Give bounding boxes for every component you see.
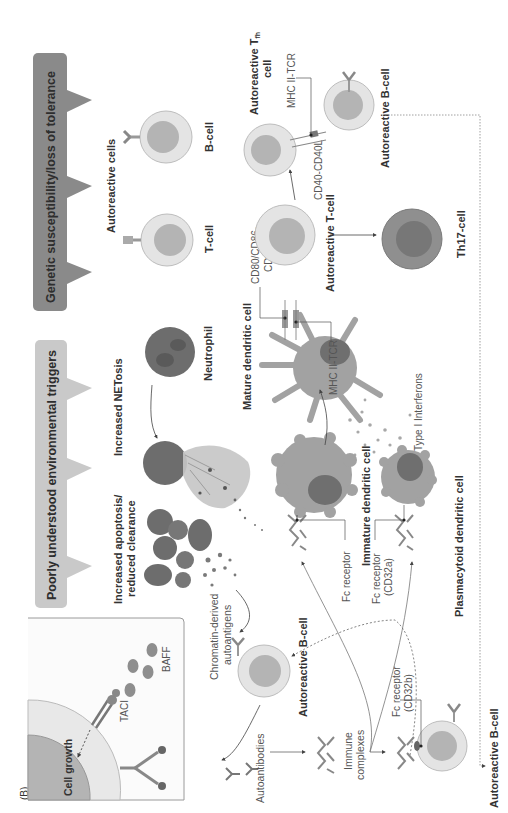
autoreactive-tfh-cell-icon <box>244 124 296 176</box>
plasmacytoid-dendritic-cell-icon <box>379 445 437 507</box>
t-cell-label: T-cell <box>203 225 215 253</box>
autoreactive-t-cell-label: Autoreactive T-cell <box>324 194 336 292</box>
mature-dc-label: Mature dendritic cell <box>241 303 253 410</box>
increased-apoptosis-label-2: reduced clearance <box>125 500 137 597</box>
mhc-tcr-label-2: MHC II-TCR <box>286 53 297 108</box>
autoreactive-b-cell-bottom-icon <box>414 704 467 771</box>
autoreactive-tfh-label-2: cell <box>261 60 273 78</box>
banner-genetic-text: Genetic susceptibility/loss of tolerance <box>44 71 58 303</box>
apoptotic-cells-icon: Increased apoptosis/ reduced clearance <box>112 495 236 604</box>
neutrophil-icon <box>145 327 195 377</box>
dc-tcell-receptors-icon <box>282 300 299 340</box>
figure-canvas: Genetic susceptibility/loss of tolerance… <box>0 0 508 813</box>
autoreactive-b-cell-top-icon <box>324 72 374 130</box>
increased-apoptosis-label-1: Increased apoptosis/ <box>112 495 124 604</box>
chromatin-label-1: Chromatin-derived <box>208 593 220 680</box>
type1-ifn-label: Type I Interferons <box>413 373 424 451</box>
autoreactive-cells-label: Autoreactive cells <box>105 139 117 233</box>
banner-environmental-text: Poorly understood environmental triggers <box>45 350 59 600</box>
autoreactive-t-cell-icon <box>255 205 315 265</box>
t-cell-icon <box>123 214 193 266</box>
fc-cd32b-label-2: (CD32b) <box>403 674 414 712</box>
immature-dc-label: Immature dendritic cell <box>360 446 372 566</box>
autoreactive-b-cell-bottom-label: Autoreactive B-cell <box>488 708 500 808</box>
b-cell-label: B-cell <box>203 122 215 152</box>
autoantibodies-label: Autoantibodies <box>254 734 266 803</box>
autoreactive-b-cell-mid-icon <box>232 638 290 697</box>
fc-cd32a-label-2: (CD32a) <box>383 558 394 596</box>
autoreactive-b-cell-mid-label: Autoreactive B-cell <box>297 617 309 717</box>
immune-complexes-label-1: Immune <box>342 732 354 770</box>
inset-baff-taci: (B) Cell growth TACI BAFF <box>19 618 184 800</box>
th17-cell-icon <box>382 209 442 269</box>
cd40-label: CD40-CD40L <box>313 140 324 200</box>
chromatin-label-2: autoantigens <box>221 605 233 665</box>
autoreactive-tfh-label-1: Autoreactive Tfh <box>248 32 261 115</box>
autoreactive-cells-group: Autoreactive cells B-cell T-cell <box>105 111 215 266</box>
neutrophil-label: Neutrophil <box>202 326 214 381</box>
mhc-tcr-label-1: MHC II-TCR <box>328 340 339 395</box>
immature-dendritic-cell-icon <box>271 432 358 518</box>
plasmacytoid-dc-label: Plasmacytoid dendritic cell <box>453 475 465 617</box>
autoreactive-b-cell-top-label: Autoreactive B-cell <box>379 68 391 168</box>
fc-cd32a-label-1: Fc receptor <box>371 553 382 604</box>
banner-genetic: Genetic susceptibility/loss of tolerance <box>33 53 92 311</box>
increased-netosis-label: Increased NETosis <box>112 358 124 456</box>
cell-growth-label: Cell growth <box>62 739 74 796</box>
th17-label: Th17-cell <box>455 210 467 258</box>
banner-environmental: Poorly understood environmental triggers <box>35 340 92 608</box>
immune-complexes-label-2: complexes <box>354 730 366 780</box>
mature-dendritic-cell-icon <box>262 315 380 420</box>
taci-label: TACI <box>119 700 130 722</box>
baff-label: BAFF <box>161 646 172 672</box>
fc-cd32b-label-1: Fc receptor <box>391 666 402 717</box>
immune-complex-cd32b-icon <box>398 737 414 769</box>
immune-complexes-icon <box>318 737 334 773</box>
fc-receptor-label: Fc receptor <box>341 551 352 602</box>
b-cell-icon <box>124 111 192 163</box>
